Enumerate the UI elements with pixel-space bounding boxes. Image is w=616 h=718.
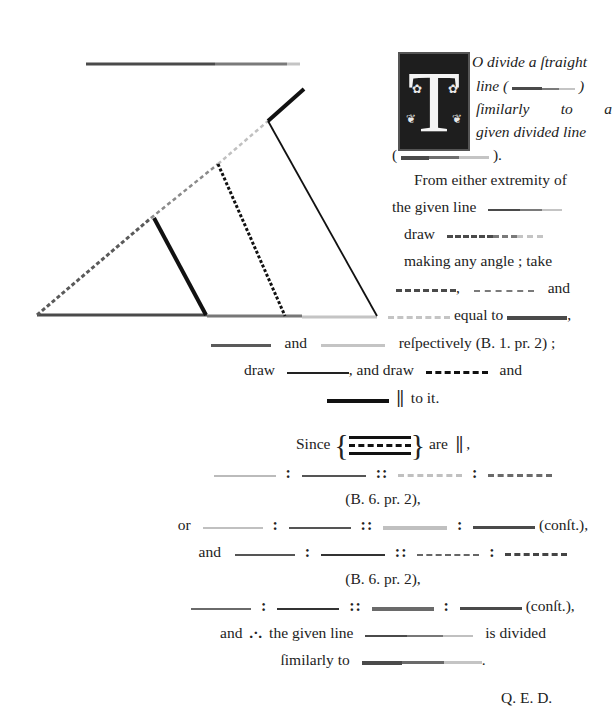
ratio-symbol: :: [489, 543, 495, 560]
intro-text: ſimilarly: [476, 99, 529, 119]
thick-line-symbol: [327, 388, 389, 410]
given-line-symbol: [488, 198, 562, 218]
parallel-lines-group: [349, 436, 411, 455]
reference-2: (B. 6. pr. 2),: [150, 568, 616, 590]
parallel-dotted-line: [218, 164, 285, 316]
divided-line-symbol: [512, 77, 575, 97]
body-text: is divided: [485, 624, 546, 641]
divided-line-symbol: [362, 650, 482, 672]
body-text: draw: [404, 225, 435, 242]
light-line-symbol: [203, 515, 263, 537]
left-brace: {: [334, 428, 348, 461]
base-line: [37, 315, 377, 317]
qed: Q. E. D.: [501, 688, 552, 708]
extension-line: [268, 89, 304, 121]
body-text: making any angle ; take: [404, 252, 552, 269]
body-line-2: the given line: [392, 197, 562, 218]
body-text: equal to: [454, 306, 504, 323]
construction-ref: (conſt.),: [526, 597, 575, 614]
body-text: , and draw: [349, 361, 414, 378]
body-text: or: [178, 516, 191, 533]
given-line-symbol: [365, 623, 473, 645]
proportion-1: : :: :: [150, 462, 616, 485]
intro-line-2: line ( ): [476, 76, 584, 97]
intro-text: given divided line: [476, 123, 586, 140]
dark-line-symbol: [277, 596, 339, 618]
intro-text: ): [579, 77, 584, 94]
body-text: and: [548, 279, 570, 296]
geometric-figure: [0, 0, 390, 330]
conclusion-line-2: ſimilarly to .: [150, 649, 616, 672]
intro-line-1: O divide a ſtraight: [472, 52, 587, 72]
dark-line-symbol: [321, 542, 385, 564]
parallel-symbol: ||: [456, 432, 462, 453]
body-text: and: [220, 624, 242, 641]
body-line-9: || to it.: [150, 386, 616, 410]
body-line-6: equal to ,: [388, 305, 571, 326]
medium-line-symbol: [289, 515, 351, 537]
proportion-symbol: ::: [395, 543, 408, 560]
dashed-line-symbol: [447, 225, 543, 245]
intro-line-3: ſimilarly to a: [476, 99, 612, 119]
intro-text: (: [392, 146, 397, 163]
dark-line-symbol: [211, 333, 271, 355]
body-text: and: [199, 543, 221, 560]
punct: .: [482, 651, 486, 668]
ratio-symbol: :: [261, 597, 267, 614]
dashed-medium-symbol: [488, 463, 552, 485]
punct: ,: [567, 306, 571, 323]
proportion-symbol: ::: [349, 597, 362, 614]
dashed-medium-symbol: [417, 542, 479, 564]
body-text: and: [500, 361, 522, 378]
dotted-line-symbol: [426, 360, 488, 382]
body-text: the given line: [392, 198, 476, 215]
light-line-symbol: [214, 463, 276, 485]
drop-cap-ornament: ❦ ❦ ✿ ✿ T: [398, 52, 470, 151]
intro-text: to: [561, 99, 573, 119]
conclusion-line-1: and .·. the given line is divided: [150, 622, 616, 645]
ratio-symbol: :: [305, 543, 311, 560]
body-text: draw: [244, 361, 275, 378]
dashed-medium-symbol: [474, 279, 534, 299]
body-line-8: draw , and draw and: [150, 359, 616, 382]
proportion-2: or : :: : (conſt.),: [150, 514, 616, 537]
ratio-symbol: :: [472, 464, 478, 481]
right-brace: }: [411, 428, 425, 461]
intro-text: a: [604, 99, 612, 119]
dashed-light-symbol: [398, 463, 462, 485]
body-text: the given line: [269, 624, 353, 641]
qed-text: Q. E. D.: [501, 689, 552, 706]
light-line-symbol: [383, 515, 447, 537]
body-line-7: and reſpectively (B. 1. pr. 2) ;: [150, 332, 616, 355]
intro-text: O divide a ſtraight: [472, 53, 587, 70]
proportion-symbol: ::: [361, 516, 374, 533]
thin-line-symbol: [287, 360, 349, 382]
construction-ref: (conſt.),: [539, 516, 588, 533]
therefore-symbol: .·.: [249, 624, 262, 641]
punct: ,: [456, 279, 460, 296]
ratio-symbol: :: [286, 464, 292, 481]
medium-line-symbol: [235, 542, 295, 564]
reference-1: (B. 6. pr. 2),: [150, 488, 616, 510]
intro-line-4: given divided line: [476, 122, 586, 142]
dashed-light-symbol: [388, 306, 450, 326]
joining-line: [268, 121, 377, 316]
parallel-thick-line: [154, 218, 206, 315]
body-text: and: [285, 334, 307, 351]
intro-text: ).: [493, 146, 502, 163]
divided-line-symbol: [401, 146, 489, 166]
dark-line-symbol: [473, 515, 535, 537]
light-line-symbol: [321, 333, 385, 355]
body-text: From either extremity of: [414, 171, 567, 188]
proportion-symbol: ::: [376, 464, 389, 481]
ratio-symbol: :: [444, 597, 450, 614]
body-text: reſpectively (B. 1. pr. 2) ;: [399, 334, 556, 351]
body-line-3: draw: [404, 224, 543, 245]
medium-line-symbol: [191, 596, 251, 618]
punct: ,: [466, 435, 470, 452]
medium-line-symbol: [372, 596, 434, 618]
ratio-symbol: :: [273, 516, 279, 533]
ratio-symbol: :: [457, 516, 463, 533]
dashed-dark-symbol: [396, 279, 456, 299]
intro-text: line (: [476, 77, 508, 94]
